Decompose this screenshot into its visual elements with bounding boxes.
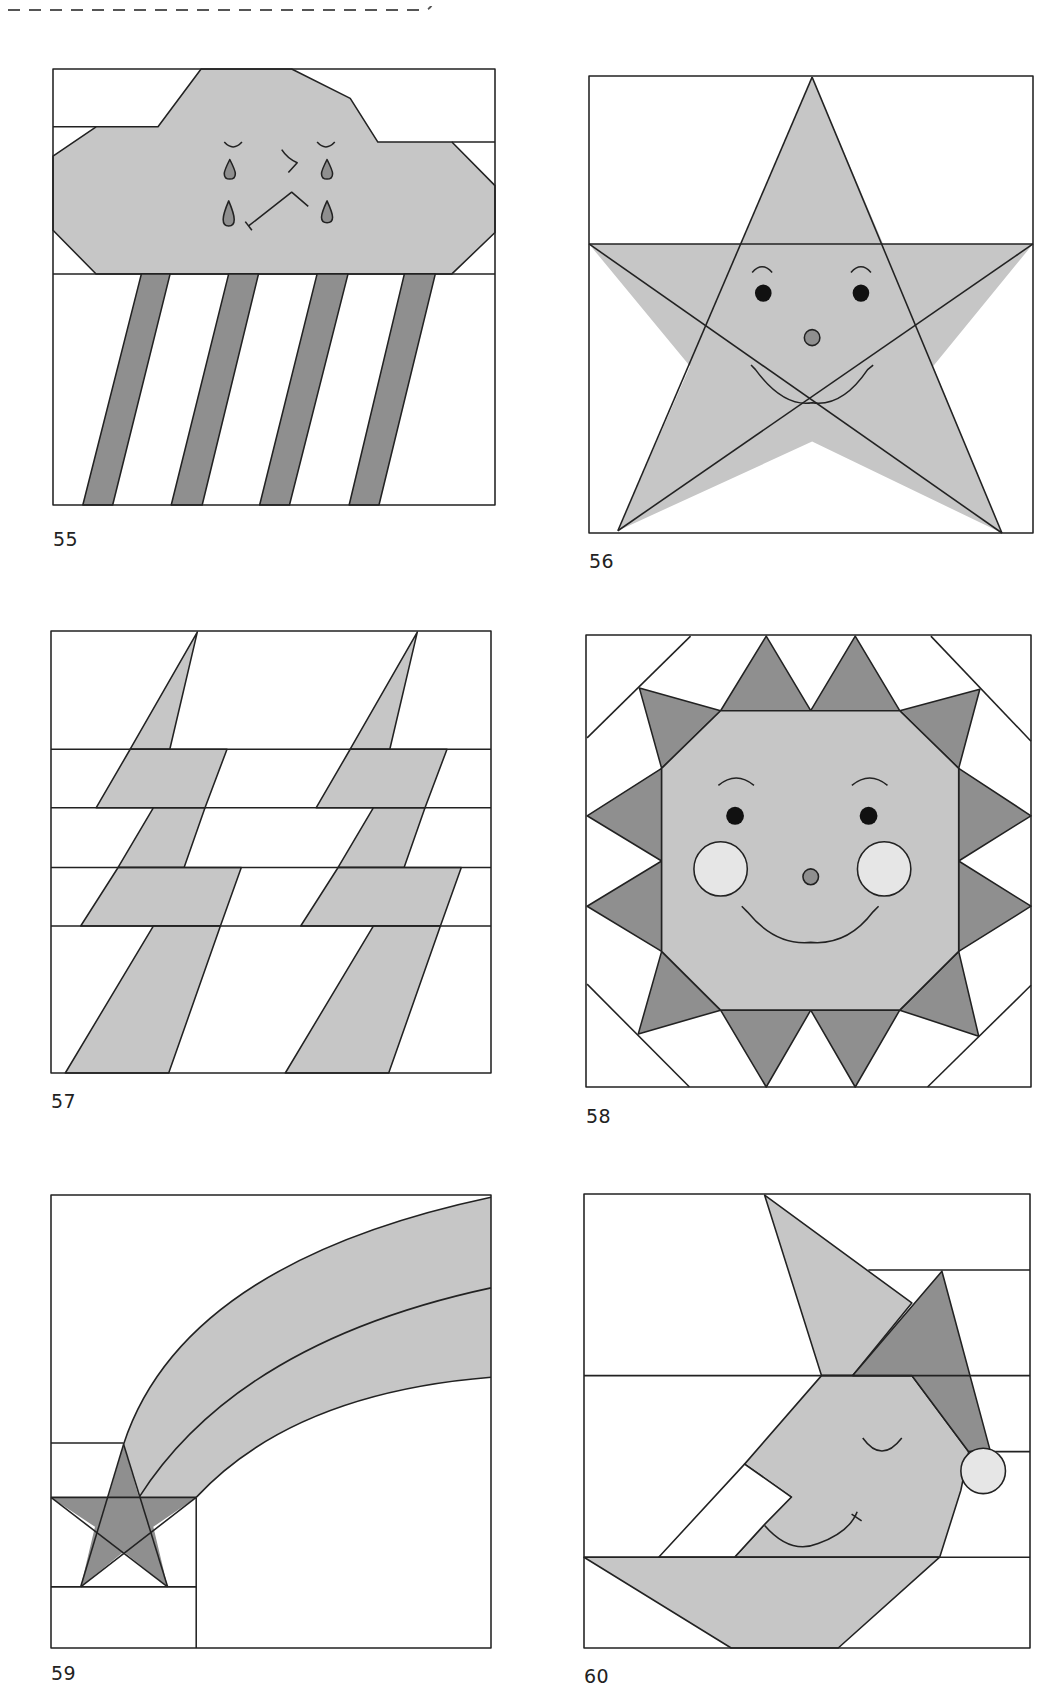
right-eye [853,285,870,302]
nose [803,869,819,885]
pompom [961,1448,1006,1493]
cut-line-dashed [0,6,440,26]
block-58-smiling-sun [586,635,1031,1087]
block-59-shooting-star [51,1195,491,1648]
block-60-sleeping-moon [584,1194,1030,1648]
block-56-smiling-star [589,76,1033,533]
left-eye [755,285,772,302]
block-number-57: 57 [51,1090,76,1112]
nose [804,330,820,346]
block-number-59: 59 [51,1662,76,1684]
right-cheek [857,842,910,896]
right-eye [860,807,878,825]
block-number-56: 56 [589,550,614,572]
left-cheek [694,842,747,896]
left-eye [726,807,744,825]
block-number-58: 58 [586,1105,611,1127]
block-number-55: 55 [53,528,78,550]
block-number-60: 60 [584,1665,609,1687]
block-57-lightning [51,631,491,1073]
block-55-rain-cloud [53,69,495,505]
